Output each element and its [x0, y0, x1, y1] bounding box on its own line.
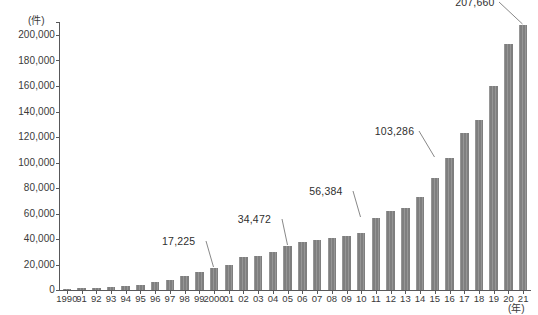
- x-axis-line: [59, 290, 531, 291]
- bar: [180, 276, 189, 290]
- x-axis-tick-label: 97: [162, 293, 178, 304]
- x-axis-tick-label: 10: [353, 293, 369, 304]
- data-label: 207,660: [455, 0, 494, 8]
- x-axis-tick-label: 91: [74, 293, 90, 304]
- data-label: 56,384: [309, 185, 342, 197]
- bar: [210, 268, 219, 290]
- bar: [416, 197, 425, 290]
- y-axis-unit-label: (件): [28, 12, 45, 27]
- bar: [519, 25, 528, 290]
- bar: [431, 178, 440, 290]
- x-axis-tick-label: 92: [88, 293, 104, 304]
- y-axis-tick-label: 20,000: [0, 259, 55, 270]
- leader-line: [417, 129, 437, 159]
- y-axis-tick-label: 140,000: [0, 106, 55, 117]
- y-axis-tick-label: 80,000: [0, 182, 55, 193]
- x-axis-tick-label: 09: [339, 293, 355, 304]
- bar: [283, 246, 292, 290]
- data-label: 34,472: [238, 213, 271, 225]
- x-axis-tick-label: 06: [294, 293, 310, 304]
- bar: [357, 233, 366, 290]
- y-axis-tick-label: 40,000: [0, 233, 55, 244]
- bar: [298, 242, 307, 290]
- x-axis-tick-label: 94: [118, 293, 134, 304]
- bar: [239, 257, 248, 290]
- x-axis-tick-label: 02: [235, 293, 251, 304]
- bar: [328, 238, 337, 290]
- x-axis-tick-label: 93: [103, 293, 119, 304]
- x-axis-tick-label: 15: [427, 293, 443, 304]
- bar: [195, 272, 204, 290]
- bar: [460, 133, 469, 290]
- bar: [489, 86, 498, 290]
- bar: [372, 218, 381, 290]
- bar: [63, 289, 72, 290]
- bar: [475, 120, 484, 290]
- y-axis-tick-label: 200,000: [0, 29, 55, 40]
- bar: [313, 240, 322, 290]
- bar: [504, 44, 513, 290]
- x-axis-tick-label: 19: [486, 293, 502, 304]
- y-axis-tick-label: 60,000: [0, 208, 55, 219]
- x-axis-tick-label: 95: [132, 293, 148, 304]
- x-axis-tick-label: 11: [368, 293, 384, 304]
- y-axis-tick-label: 120,000: [0, 131, 55, 142]
- leader-line: [280, 217, 290, 247]
- bar: [136, 285, 145, 290]
- data-label: 103,286: [375, 125, 414, 137]
- bar-chart: (件) (年) 020,00040,00060,00080,000100,000…: [0, 0, 538, 315]
- leader-line: [204, 239, 216, 269]
- x-axis-tick-label: 04: [265, 293, 281, 304]
- x-axis-tick-label: 21: [515, 293, 531, 304]
- bar: [77, 288, 86, 290]
- bar: [225, 265, 234, 290]
- bar: [254, 256, 263, 290]
- bar: [401, 208, 410, 290]
- y-axis-tick-label: 100,000: [0, 157, 55, 168]
- bar: [445, 158, 454, 290]
- x-axis-tick-label: 16: [442, 293, 458, 304]
- bar: [92, 288, 101, 290]
- x-axis-tick-label: 12: [383, 293, 399, 304]
- leader-line: [497, 0, 525, 26]
- x-axis-tick-label: 08: [324, 293, 340, 304]
- x-axis-tick-label: 14: [412, 293, 428, 304]
- y-axis-tick-label: 180,000: [0, 55, 55, 66]
- x-axis-tick-label: 96: [147, 293, 163, 304]
- bar: [386, 211, 395, 290]
- y-axis-line: [59, 22, 60, 290]
- data-label: 17,225: [162, 235, 195, 247]
- bar: [269, 252, 278, 290]
- y-axis-tick-label: 160,000: [0, 80, 55, 91]
- x-axis-tick-label: 17: [456, 293, 472, 304]
- x-axis-tick-label: 18: [471, 293, 487, 304]
- bar: [107, 287, 116, 290]
- bar: [342, 236, 351, 290]
- x-axis-tick-label: 05: [280, 293, 296, 304]
- x-axis-tick-label: 03: [250, 293, 266, 304]
- x-axis-tick-label: 01: [221, 293, 237, 304]
- x-axis-tick-label: 98: [177, 293, 193, 304]
- y-axis-tick-label: 0: [0, 284, 55, 295]
- bar: [151, 282, 160, 290]
- bar: [121, 286, 130, 290]
- x-axis-tick-label: 20: [500, 293, 516, 304]
- x-axis-tick-label: 13: [397, 293, 413, 304]
- leader-line: [351, 189, 363, 219]
- x-axis-tick-label: 07: [309, 293, 325, 304]
- bar: [166, 280, 175, 290]
